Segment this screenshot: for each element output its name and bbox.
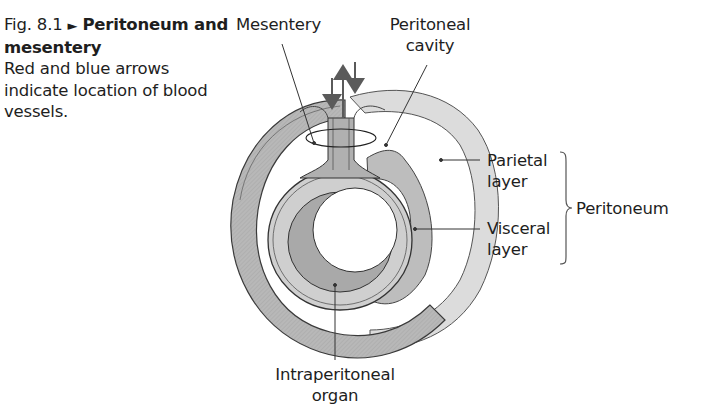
label-visceral-layer: Visceral layer (487, 218, 550, 260)
label-mesentery: Mesentery (236, 14, 321, 35)
label-peritoneum: Peritoneum (576, 198, 669, 219)
brace-icon (560, 152, 572, 264)
label-peritoneal-cavity: Peritoneal cavity (380, 14, 480, 56)
intraperitoneal-organ-shape (268, 170, 412, 310)
label-intraperitoneal-organ: Intraperitoneal organ (255, 364, 415, 406)
label-parietal-layer: Parietal layer (487, 150, 547, 192)
